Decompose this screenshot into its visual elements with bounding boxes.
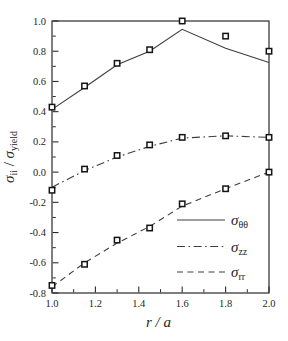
sigma-rr-marker	[147, 225, 152, 230]
x-tick-label: 2.0	[262, 298, 275, 309]
legend-item-sigma-theta-theta: σθθ	[177, 212, 248, 230]
sigma-rr-marker	[82, 262, 87, 267]
y-axis-title: σii / σyield	[1, 131, 19, 183]
y-tick-label: 0.2	[33, 136, 46, 147]
y-tick-label: -0.8	[29, 288, 46, 299]
sigma-theta-theta-curve	[52, 29, 269, 109]
y-tick-label: -0.2	[29, 197, 46, 208]
sigma-theta-theta-marker	[180, 18, 185, 23]
legend-item-sigma-rr: σrr	[177, 264, 246, 282]
y-tick-label: 0.0	[33, 167, 46, 178]
x-axis-title: r / a	[146, 314, 171, 330]
x-axis: 1.01.21.41.61.82.0	[45, 287, 275, 310]
sigma-theta-theta-marker	[147, 47, 152, 52]
sigma-rr-marker	[266, 169, 271, 174]
sigma-theta-theta-marker	[114, 61, 119, 66]
y-tick-label: -0.6	[29, 257, 46, 268]
sigma-zz-marker	[82, 166, 87, 171]
y-axis: 1.00.80.60.40.20.0-0.2-0.4-0.6-0.8	[29, 16, 58, 299]
sigma-theta-theta-marker	[266, 49, 271, 54]
y-tick-label: 0.8	[33, 46, 46, 57]
series-sigma-theta-theta-markers	[49, 18, 271, 110]
sigma-theta-theta-marker	[49, 104, 54, 109]
x-tick-label: 1.2	[89, 298, 102, 309]
x-tick-label: 1.8	[219, 298, 232, 309]
sigma-rr-marker	[223, 186, 228, 191]
y-tick-label: 0.4	[33, 106, 47, 117]
y-tick-label: 0.6	[33, 76, 46, 87]
legend-label-sigma-zz: σzz	[231, 239, 248, 257]
x-tick-label: 1.4	[132, 298, 146, 309]
sigma-theta-theta-marker	[82, 83, 87, 88]
sigma-rr-marker	[49, 283, 54, 288]
y-tick-label: -0.4	[29, 227, 46, 238]
sigma-zz-curve	[52, 136, 269, 187]
series-sigma-theta-theta-line	[52, 29, 269, 109]
sigma-rr-marker	[180, 201, 185, 206]
x-tick-label: 1.6	[176, 298, 189, 309]
sigma-rr-marker	[114, 237, 119, 242]
legend-item-sigma-zz: σzz	[177, 239, 248, 257]
legend-label-sigma-rr: σrr	[231, 264, 246, 282]
sigma-zz-marker	[180, 135, 185, 140]
sigma-zz-marker	[147, 142, 152, 147]
axis-titles: r / aσii / σyield	[1, 131, 171, 330]
figure-canvas: 1.01.21.41.61.82.01.00.80.60.40.20.0-0.2…	[0, 0, 288, 341]
sigma-theta-theta-marker	[223, 33, 228, 38]
sigma-zz-marker	[49, 188, 54, 193]
sigma-zz-marker	[114, 153, 119, 158]
legend: σθθσzzσrr	[177, 212, 248, 282]
sigma-zz-marker	[266, 135, 271, 140]
stress-distribution-chart: 1.01.21.41.61.82.01.00.80.60.40.20.0-0.2…	[0, 0, 288, 341]
legend-label-sigma-theta-theta: σθθ	[231, 212, 248, 230]
y-tick-label: 1.0	[33, 16, 46, 27]
sigma-zz-marker	[223, 133, 228, 138]
series-sigma-zz-line	[52, 136, 269, 187]
x-tick-label: 1.0	[45, 298, 58, 309]
